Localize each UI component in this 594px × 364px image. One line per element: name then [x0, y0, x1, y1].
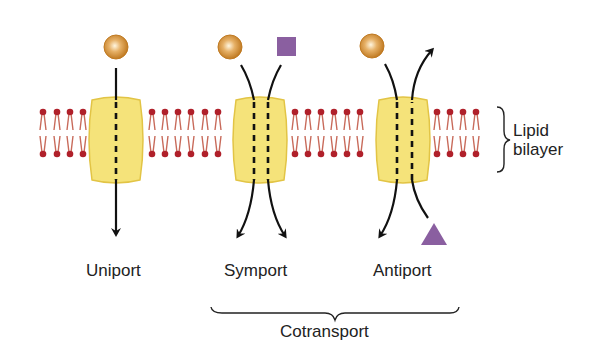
lipid-bilayer-label-line2: bilayer: [513, 140, 563, 159]
cotransport-brace-icon: [211, 307, 459, 320]
sphere-substrate-icon: [218, 35, 242, 59]
lipid-segment-right: [434, 109, 480, 158]
lipid-segment-middle-left: [149, 109, 222, 158]
lipid-segment-left: [40, 109, 87, 158]
lipid-segment-middle-right: [292, 109, 364, 158]
bilayer-brace-icon: [497, 107, 510, 172]
symport-label: Symport: [224, 261, 287, 281]
uniport-label: Uniport: [86, 261, 141, 281]
arrow-down-left-icon: [380, 180, 397, 236]
square-substrate-icon: [277, 37, 296, 56]
lipid-bilayer-label-line1: Lipid: [513, 121, 563, 140]
antiport-label: Antiport: [373, 261, 432, 281]
carrier-protein-symport: [233, 97, 287, 183]
lipid-bilayer-label: Lipid bilayer: [513, 121, 563, 159]
triangle-substrate-icon: [421, 223, 447, 245]
sphere-substrate-icon: [104, 35, 128, 59]
arrow-up-right-icon: [412, 50, 432, 100]
carrier-protein-antiport: [376, 97, 430, 183]
sphere-substrate-icon: [360, 34, 384, 58]
arrow-down-right-icon: [268, 180, 285, 236]
uniport-transporter: [89, 35, 143, 234]
cotransport-label: Cotransport: [280, 322, 369, 342]
symport-transporter: [218, 35, 296, 236]
arrow-down-left-icon: [238, 180, 254, 236]
transport-diagram: [0, 0, 594, 364]
